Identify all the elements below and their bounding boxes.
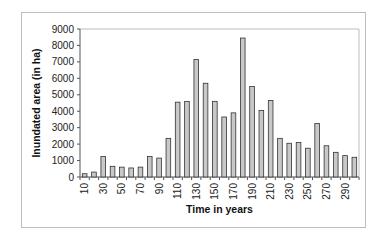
x-tick-label: 150 <box>209 183 220 200</box>
bar <box>222 117 227 177</box>
x-tick-label: 50 <box>116 183 127 195</box>
bar <box>120 167 125 177</box>
x-tick-label: 10 <box>79 183 90 195</box>
y-tick-label: 2000 <box>52 139 75 150</box>
bar <box>259 110 264 177</box>
bar <box>343 156 348 177</box>
bar <box>157 158 162 177</box>
y-tick-label: 9000 <box>52 24 75 35</box>
y-tick-label: 5000 <box>52 89 75 100</box>
bar <box>194 59 199 177</box>
bar <box>175 102 180 177</box>
x-tick-label: 90 <box>154 183 165 195</box>
y-tick-label: 4000 <box>52 106 75 117</box>
bar <box>240 38 245 177</box>
bar <box>352 157 357 177</box>
y-tick-label: 3000 <box>52 122 75 133</box>
bar <box>147 156 152 177</box>
bar <box>250 87 255 177</box>
bar <box>92 172 97 177</box>
bar <box>82 174 87 177</box>
y-tick-label: 1000 <box>52 155 75 166</box>
bar <box>185 101 190 177</box>
x-tick-label: 190 <box>247 183 258 200</box>
bar <box>268 101 273 177</box>
bar <box>101 156 106 177</box>
bar <box>306 148 311 177</box>
x-tick-label: 250 <box>302 183 313 200</box>
bar <box>231 113 236 177</box>
y-tick-label: 7000 <box>52 56 75 67</box>
x-tick-label: 70 <box>135 183 146 195</box>
bar <box>138 167 143 177</box>
bar <box>287 143 292 177</box>
bar <box>213 101 218 177</box>
bar <box>110 166 115 177</box>
x-axis-title: Time in years <box>186 203 253 215</box>
x-tick-label: 110 <box>172 183 183 199</box>
y-tick-label: 0 <box>68 172 74 183</box>
bar <box>296 142 301 177</box>
bar <box>278 138 283 177</box>
x-tick-label: 170 <box>228 183 239 200</box>
x-tick-label: 290 <box>340 183 351 200</box>
bar <box>324 146 329 177</box>
bar <box>166 138 171 177</box>
x-tick-label: 230 <box>284 183 295 200</box>
x-tick-label: 270 <box>321 183 332 200</box>
bar <box>315 124 320 177</box>
bar <box>203 83 208 177</box>
y-tick-label: 6000 <box>52 73 75 84</box>
y-axis-title: Inundated area (in ha) <box>30 48 42 157</box>
x-tick-label: 210 <box>265 183 276 200</box>
y-tick-label: 8000 <box>52 40 75 51</box>
bar <box>333 152 338 177</box>
x-tick-label: 30 <box>98 183 109 195</box>
bar <box>129 168 134 177</box>
bar-chart: 0100020003000400050006000700080009000103… <box>0 0 386 242</box>
x-tick-label: 130 <box>191 183 202 200</box>
